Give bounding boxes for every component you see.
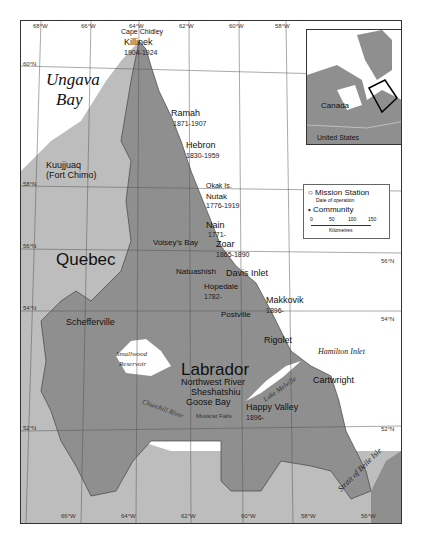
lon-tick: 60°W (229, 23, 244, 29)
canada-label: Canada (321, 102, 349, 110)
place-label: Goose Bay (186, 398, 231, 407)
date-label: 1782- (204, 293, 222, 300)
place-label: Rigolet (264, 336, 292, 345)
ungava-label: Bay (56, 91, 82, 108)
scale-tick: 50 (329, 217, 335, 222)
place-label: Voisey's Bay (153, 239, 198, 247)
place-label: Kuujjuaq (46, 161, 81, 170)
map-frame: 68°W 66°W 64°W 62°W 60°W 58°W 66°W 64°W … (20, 20, 402, 524)
place-label: Hopedale (204, 283, 238, 291)
place-label: Happy Valley (246, 403, 298, 412)
lat-tick: 54°N (381, 316, 394, 322)
lon-tick: 62°W (179, 23, 194, 29)
community-label: Community (313, 205, 353, 214)
lon-tick: 56°W (361, 513, 376, 519)
place-label: Cartwright (313, 376, 354, 385)
place-label: Natuashish (176, 268, 216, 276)
place-label: Muskrat Falls (196, 413, 232, 419)
lon-tick: 64°W (121, 513, 136, 519)
place-label: Ramah (171, 109, 200, 118)
scale-bar (311, 225, 371, 226)
lon-tick: 60°W (241, 513, 256, 519)
lat-tick: 52°N (23, 425, 36, 431)
lat-tick: 58°N (23, 181, 36, 187)
lon-tick: 66°W (81, 23, 96, 29)
lon-tick: 66°W (61, 513, 76, 519)
mission-sub-label: Date of operation (316, 198, 354, 203)
lat-tick: 56°N (381, 258, 394, 264)
date-label: 1776-1919 (206, 202, 239, 209)
place-label: Sheshatshiu (191, 388, 241, 397)
date-label: 1871-1907 (173, 120, 206, 127)
inset-shapes (307, 30, 402, 144)
mission-legend: ○ Mission Station (308, 189, 369, 197)
place-label: Killinek (124, 38, 153, 47)
lat-tick: 54°N (23, 305, 36, 311)
scale-unit: Kilometres (329, 228, 353, 233)
place-label: Northwest River (181, 378, 245, 387)
mission-label: Mission Station (315, 188, 369, 197)
place-label: Hebron (186, 141, 216, 150)
lat-tick: 56°N (23, 243, 36, 249)
scale-tick: 100 (348, 217, 356, 222)
lon-tick: 62°W (181, 513, 196, 519)
inset-map: Canada United States (306, 29, 402, 145)
community-legend: • Community (308, 206, 353, 214)
place-label: Postville (221, 311, 251, 319)
date-label: 1896- (266, 307, 284, 314)
scale-tick: 0 (310, 217, 313, 222)
place-label: Schefferville (66, 318, 115, 327)
labrador-label: Labrador (181, 361, 249, 378)
place-label: (Fort Chimo) (46, 171, 97, 180)
date-label: 1830-1959 (186, 152, 219, 159)
place-label: Nutak (206, 193, 227, 201)
lon-tick: 58°W (301, 513, 316, 519)
place-label: Okak Is. (206, 182, 232, 189)
ungava-label: Ungava (46, 71, 100, 88)
place-label: Zoar (216, 240, 235, 249)
date-label: 1771- (208, 231, 226, 238)
legend: ○ Mission Station Date of operation • Co… (303, 184, 390, 239)
us-label: United States (317, 134, 359, 141)
lat-tick: 60°N (23, 61, 36, 67)
scale-tick: 150 (368, 217, 376, 222)
lat-tick: 52°N (381, 426, 394, 432)
date-label: 1865-1890 (216, 251, 249, 258)
lon-tick: 68°W (33, 23, 48, 29)
place-label: Makkovik (266, 296, 304, 305)
smallwood-label: Smallwood (116, 351, 147, 358)
date-label: 1904-1924 (124, 49, 157, 56)
place-label: Nain (206, 221, 225, 230)
place-label: Cape Chidley (121, 28, 163, 35)
lon-tick: 58°W (275, 23, 290, 29)
quebec-label: Quebec (56, 251, 116, 268)
smallwood-label: Reservoir (119, 361, 146, 368)
place-label: Davis Inlet (226, 269, 268, 278)
date-label: 1896- (246, 414, 264, 421)
hamilton-label: Hamilton Inlet (318, 348, 365, 356)
